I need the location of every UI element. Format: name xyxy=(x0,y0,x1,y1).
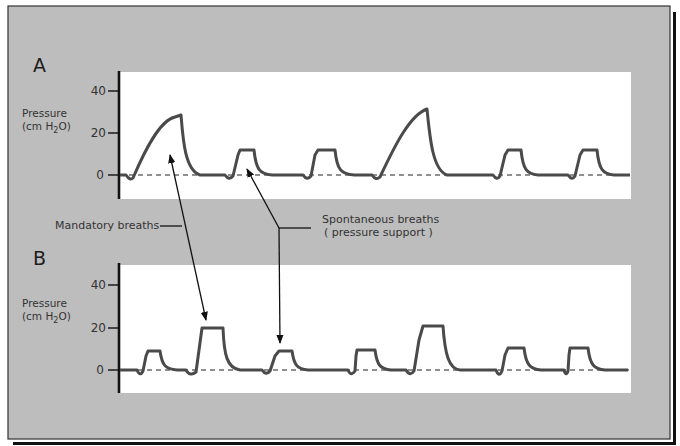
panel-a-letter: A xyxy=(33,54,46,76)
ventilator-pressure-diagram: A Pressure (cm H2O) 40 20 0 B Pressure (… xyxy=(0,0,680,446)
panel-b-plot-area xyxy=(120,265,631,393)
panel-b-ylabel-line1: Pressure xyxy=(22,297,67,309)
panel-b-letter: B xyxy=(33,247,46,269)
mandatory-breaths-label: Mandatory breaths xyxy=(55,219,160,232)
panel-a-ylabel-line1: Pressure xyxy=(22,107,67,119)
panel-a-tick-20: 20 xyxy=(91,126,106,140)
panel-a-tick-40: 40 xyxy=(91,84,106,98)
pressure-support-label: ( pressure support ) xyxy=(324,226,433,239)
panel-b-tick-20: 20 xyxy=(91,321,106,335)
panel-b-tick-40: 40 xyxy=(91,278,106,292)
panel-a-plot-area xyxy=(120,72,631,199)
spontaneous-breaths-label: Spontaneous breaths xyxy=(322,213,439,226)
panel-a-tick-0: 0 xyxy=(96,168,104,182)
panel-b-tick-0: 0 xyxy=(96,363,104,377)
